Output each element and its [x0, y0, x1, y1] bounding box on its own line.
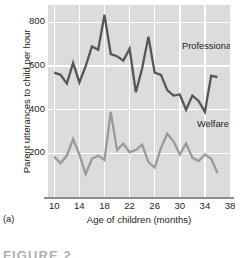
y-tick-label: 800 — [1, 15, 45, 26]
figure-heading: FIGURE 2 — [3, 248, 72, 258]
series-lines — [48, 5, 230, 197]
series-line-welfare — [54, 112, 217, 174]
x-tick-label: 26 — [149, 200, 160, 211]
x-tick-label: 10 — [49, 200, 60, 211]
x-tick-label: 34 — [200, 200, 211, 211]
x-tick-label: 18 — [99, 200, 110, 211]
x-axis-title: Age of children (months) — [48, 214, 230, 225]
x-tick-label: 38 — [225, 200, 236, 211]
series-label-welfare: Welfare — [197, 119, 229, 129]
y-axis-tick-labels: 200400600800 — [0, 5, 45, 197]
x-tick-label: 14 — [74, 200, 85, 211]
x-tick-label: 22 — [124, 200, 135, 211]
y-tick-label: 400 — [1, 103, 45, 114]
x-tick-label: 30 — [174, 200, 185, 211]
series-label-professional: Professional — [182, 41, 230, 51]
panel-caption: (a) — [3, 214, 14, 224]
series-line-professional — [54, 15, 217, 112]
x-axis-line — [44, 197, 234, 199]
plot-area: Professional Welfare — [48, 5, 230, 197]
figure-container: Parent utterances to child per hour 2004… — [0, 0, 242, 258]
x-axis-tick-labels: 1014182226303438 — [0, 200, 242, 214]
y-tick-label: 600 — [1, 59, 45, 70]
y-tick-label: 200 — [1, 146, 45, 157]
